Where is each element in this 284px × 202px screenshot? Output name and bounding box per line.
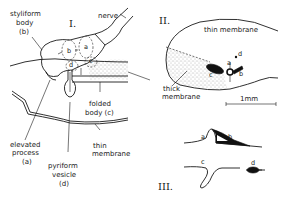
label-pyriform-2: vesicle (52, 171, 76, 179)
label-c: c (89, 57, 93, 65)
label-a-ii: a (227, 59, 231, 67)
label-styliform-3: (b) (19, 28, 29, 36)
label-c-ii: c (209, 71, 213, 79)
label-c-iii: c (201, 158, 205, 166)
panel-3: III. a b c d (158, 129, 265, 192)
organ-d-dot (235, 56, 237, 58)
label-folded-2: body (c) (85, 109, 114, 117)
leader-styliform (32, 37, 42, 50)
label-styliform-1: styliform (10, 10, 41, 18)
panel-2: II. thin membrane thick membrane a b c d… (159, 15, 278, 106)
label-scale: 1mm (240, 95, 258, 103)
label-elevated-3: (a) (22, 158, 32, 166)
label-a: a (84, 43, 88, 51)
label-thin-1: thin (93, 142, 107, 150)
nerve-lower (105, 16, 133, 45)
leader-thin (95, 124, 100, 130)
profile-c-fold (184, 167, 240, 188)
label-elevated-1: elevated (10, 141, 41, 149)
label-d: d (69, 61, 73, 69)
label-elevated-2: process (12, 149, 39, 157)
panel-1: I. ner (10, 8, 150, 188)
panel-1-numeral: I. (69, 18, 76, 29)
label-nerve: nerve (98, 12, 118, 20)
label-folded-1: folded (89, 100, 111, 108)
label-thick-2: membrane (162, 93, 200, 101)
organ-a-ring (227, 69, 233, 75)
label-thin-2: membrane (92, 150, 130, 158)
panel-3-numeral: III. (158, 181, 173, 192)
label-thin-membrane-ii: thin membrane (204, 26, 258, 34)
label-b: b (67, 47, 71, 55)
leader-pyriform (68, 102, 70, 152)
label-d-ii: d (238, 50, 242, 58)
tympanal-organ-diagram: I. ner (0, 0, 284, 202)
nerve-tick (120, 14, 126, 18)
label-d-iii: d (251, 159, 255, 167)
label-styliform-2: body (16, 19, 33, 27)
leader-thick-membrane (128, 72, 150, 80)
profile-d-vesicle (247, 167, 259, 173)
label-a-iii: a (201, 133, 205, 141)
label-thick-1: thick (163, 85, 181, 93)
label-b-iii: b (228, 133, 232, 141)
panel-2-numeral: II. (159, 15, 170, 26)
label-pyriform-3: (d) (59, 180, 69, 188)
thick-membrane-region (88, 59, 128, 80)
label-b-ii: b (239, 70, 243, 78)
label-pyriform-1: pyriform (48, 162, 78, 170)
arrow-b-to-body (58, 52, 62, 54)
